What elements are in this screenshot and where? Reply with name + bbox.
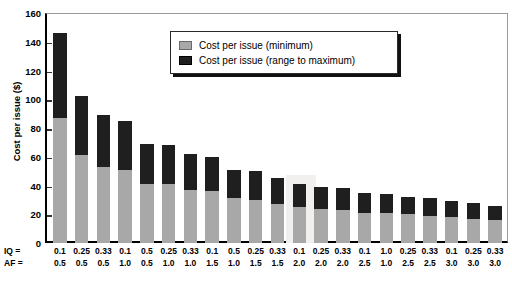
- x-tick-iq-9: 0.5: [228, 246, 240, 256]
- bar-segment-range-to-maximum: [53, 33, 66, 118]
- bar-4: [118, 121, 131, 243]
- bar-segment-minimum: [249, 200, 262, 243]
- x-tick-iq-8: 0.1: [206, 246, 218, 256]
- x-tick-iq-15: 0.1: [359, 246, 371, 256]
- y-tick-60: 60: [30, 151, 41, 162]
- bar-segment-range-to-maximum: [293, 184, 306, 207]
- bar-segment-minimum: [205, 191, 218, 243]
- bar-12: [293, 184, 306, 243]
- x-tick-af-4: 1.0: [119, 258, 131, 268]
- bar-segment-minimum: [140, 184, 153, 243]
- bar-segment-range-to-maximum: [358, 193, 371, 213]
- bar-segment-range-to-maximum: [467, 203, 480, 219]
- x-tick-af-18: 2.5: [424, 258, 436, 268]
- x-tick-iq-21: 0.33: [487, 246, 504, 256]
- bar-segment-range-to-maximum: [118, 121, 131, 170]
- bar-segment-range-to-maximum: [75, 96, 88, 155]
- bar-21: [488, 206, 501, 243]
- x-tick-iq-18: 0.33: [422, 246, 439, 256]
- bar-10: [249, 171, 262, 243]
- bar-segment-minimum: [488, 220, 501, 243]
- x-tick-iq-12: 0.1: [293, 246, 305, 256]
- legend-label-minimum: Cost per issue (minimum): [199, 40, 313, 51]
- bar-15: [358, 193, 371, 243]
- bar-segment-minimum: [314, 209, 327, 244]
- bar-segment-minimum: [184, 190, 197, 243]
- bar-7: [184, 154, 197, 243]
- bar-3: [97, 115, 110, 243]
- x-tick-af-11: 1.5: [272, 258, 284, 268]
- x-axis-row-key-af: AF =: [4, 258, 23, 268]
- x-tick-iq-16: 1.0: [380, 246, 392, 256]
- x-tick-af-17: 2.5: [402, 258, 414, 268]
- x-tick-af-8: 1.5: [206, 258, 218, 268]
- x-tick-iq-17: 0.25: [400, 246, 417, 256]
- bar-segment-minimum: [358, 213, 371, 243]
- legend-swatch-range-to-maximum-icon: [179, 56, 192, 65]
- bar-segment-minimum: [75, 155, 88, 243]
- x-tick-af-15: 2.5: [359, 258, 371, 268]
- bar-segment-minimum: [271, 204, 284, 243]
- bar-6: [162, 145, 175, 243]
- bar-segment-minimum: [53, 118, 66, 243]
- x-tick-af-1: 0.5: [54, 258, 66, 268]
- y-tick-140: 140: [25, 36, 41, 47]
- bar-11: [271, 178, 284, 243]
- x-tick-af-20: 3.0: [467, 258, 479, 268]
- x-tick-af-10: 1.5: [250, 258, 262, 268]
- x-tick-af-19: 3.0: [446, 258, 458, 268]
- y-tick-160: 160: [25, 8, 41, 19]
- bar-segment-minimum: [336, 210, 349, 243]
- x-axis-row-key-iq: IQ =: [4, 246, 20, 256]
- x-tick-af-12: 2.0: [293, 258, 305, 268]
- chart-figure: Cost per issue ($) 020406080100120140160…: [0, 0, 512, 284]
- bar-segment-range-to-maximum: [205, 157, 218, 192]
- bar-18: [423, 198, 436, 243]
- bar-16: [380, 194, 393, 243]
- x-tick-iq-3: 0.33: [95, 246, 112, 256]
- bar-8: [205, 157, 218, 243]
- x-axis-label-rows: IQ =0.10.250.330.10.50.250.330.10.50.250…: [0, 246, 512, 282]
- bar-segment-range-to-maximum: [445, 201, 458, 217]
- x-tick-iq-11: 0.33: [269, 246, 286, 256]
- x-tick-af-9: 1.0: [228, 258, 240, 268]
- legend-label-range-to-maximum: Cost per issue (range to maximum): [199, 55, 355, 66]
- y-tick-100: 100: [25, 94, 41, 105]
- bar-segment-minimum: [401, 214, 414, 243]
- y-tick-20: 20: [30, 209, 41, 220]
- bar-segment-range-to-maximum: [401, 197, 414, 214]
- x-tick-af-21: 3.0: [489, 258, 501, 268]
- bar-segment-minimum: [380, 213, 393, 243]
- bar-17: [401, 197, 414, 243]
- x-tick-af-14: 2.0: [337, 258, 349, 268]
- x-tick-iq-14: 0.33: [335, 246, 352, 256]
- x-tick-af-5: 0.5: [141, 258, 153, 268]
- x-tick-iq-5: 0.5: [141, 246, 153, 256]
- x-tick-iq-19: 0.1: [446, 246, 458, 256]
- bar-2: [75, 96, 88, 243]
- bar-segment-range-to-maximum: [249, 171, 262, 200]
- bar-5: [140, 144, 153, 243]
- bar-segment-range-to-maximum: [227, 170, 240, 199]
- bar-segment-minimum: [162, 184, 175, 243]
- x-tick-iq-7: 0.33: [182, 246, 199, 256]
- bar-segment-minimum: [467, 219, 480, 243]
- bar-segment-range-to-maximum: [488, 206, 501, 220]
- x-tick-iq-2: 0.25: [73, 246, 90, 256]
- bar-segment-minimum: [97, 167, 110, 243]
- bar-14: [336, 188, 349, 243]
- y-tick-80: 80: [30, 123, 41, 134]
- x-tick-af-2: 0.5: [76, 258, 88, 268]
- x-tick-iq-13: 0.25: [313, 246, 330, 256]
- x-tick-iq-10: 0.25: [247, 246, 264, 256]
- bar-1: [53, 33, 66, 243]
- y-tick-120: 120: [25, 65, 41, 76]
- bar-19: [445, 201, 458, 243]
- bar-13: [314, 187, 327, 243]
- chart-legend: Cost per issue (minimum) Cost per issue …: [170, 31, 398, 74]
- y-axis-tick-labels: 020406080100120140160: [0, 0, 44, 284]
- x-tick-af-16: 1.0: [380, 258, 392, 268]
- bar-segment-range-to-maximum: [97, 115, 110, 167]
- x-tick-af-6: 1.0: [163, 258, 175, 268]
- x-tick-iq-20: 0.25: [465, 246, 482, 256]
